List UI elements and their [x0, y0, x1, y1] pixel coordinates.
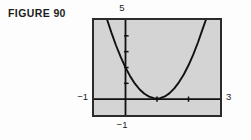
- figure-container: FIGURE 90 5 −1 −1 3: [0, 0, 251, 140]
- plot-frame: [92, 18, 222, 117]
- figure-label: FIGURE 90: [8, 7, 66, 19]
- y-min-label: −1: [117, 119, 128, 130]
- y-max-label: 5: [119, 2, 124, 13]
- x-max-label: 3: [226, 91, 231, 102]
- parabola-curve: [107, 20, 206, 99]
- x-min-label: −1: [77, 91, 88, 102]
- plot-canvas: [94, 20, 220, 115]
